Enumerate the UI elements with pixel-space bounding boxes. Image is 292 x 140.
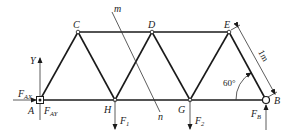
joint-C — [76, 30, 80, 34]
member-DG — [152, 32, 190, 100]
joint-E — [227, 30, 231, 34]
node-label-G: G — [178, 104, 185, 115]
force-FB-label: FB — [250, 108, 261, 120]
node-label-D: D — [147, 19, 156, 30]
force-F1-label: F1 — [119, 115, 129, 127]
section-label-m: m — [114, 3, 121, 14]
node-label-E: E — [223, 19, 230, 30]
dimension-label-1m: 1m — [256, 48, 270, 63]
force-F2-label: F2 — [194, 115, 205, 127]
section-label-n: n — [158, 111, 163, 122]
angle-label-60: 60° — [223, 78, 236, 88]
force-FAY-label: FAY — [43, 105, 59, 117]
node-label-B: B — [274, 95, 280, 106]
member-AC — [40, 32, 78, 100]
node-label-H: H — [103, 104, 112, 115]
member-EB — [229, 32, 266, 100]
node-label-C: C — [73, 19, 80, 30]
truss-members — [40, 32, 266, 100]
member-GE — [190, 32, 229, 100]
member-CH — [78, 32, 115, 100]
truss-diagram: m n Y C D E A H G B FAX FAY F1 F2 FB 1m — [0, 0, 292, 140]
joint-D — [150, 30, 154, 34]
y-axis-label: Y — [30, 55, 37, 66]
member-HD — [115, 32, 152, 100]
roller-support-B — [263, 97, 270, 104]
angle-arc-60 — [236, 73, 251, 100]
force-FAX-label: FAX — [17, 88, 33, 100]
pin-A-center — [39, 99, 42, 102]
node-label-A: A — [27, 105, 35, 116]
